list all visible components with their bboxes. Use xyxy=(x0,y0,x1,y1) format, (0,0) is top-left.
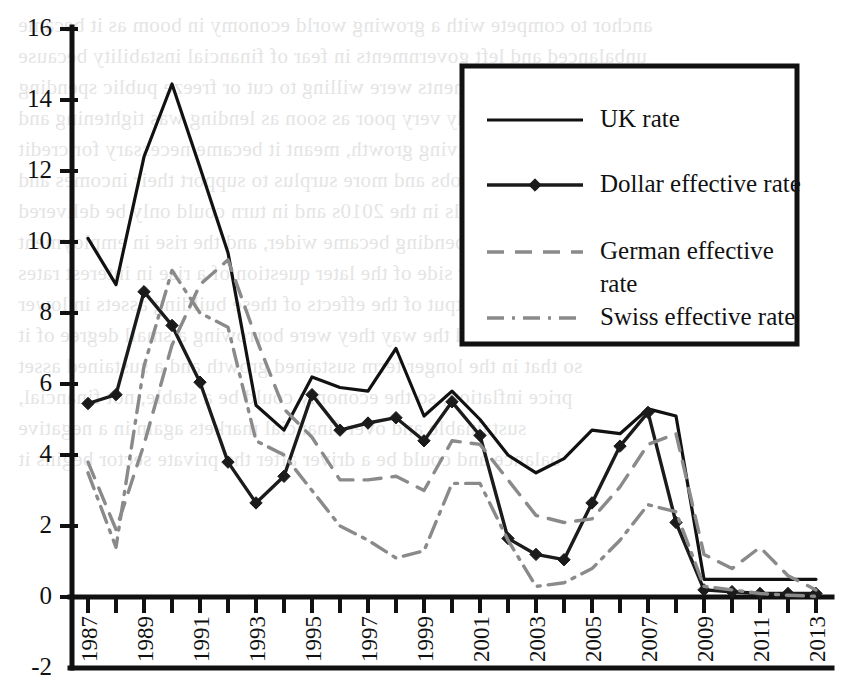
y-tick-label: 0 xyxy=(40,582,53,609)
x-tick-label: 2003 xyxy=(525,616,550,662)
y-tick-label: 16 xyxy=(27,14,52,41)
x-tick-label: 1999 xyxy=(413,616,438,662)
x-tick-label: 2009 xyxy=(693,616,718,662)
y-tick-label: 12 xyxy=(27,156,52,183)
y-tick-label: 8 xyxy=(40,298,53,325)
x-axis-tick-labels: 1987198919911993199519971999200120032005… xyxy=(77,616,830,662)
y-tick-label: 10 xyxy=(27,227,52,254)
x-tick-label: 2001 xyxy=(469,616,494,662)
legend-label: Swiss effective rate xyxy=(600,303,795,330)
legend: UK rateDollar effective rateGerman effec… xyxy=(462,66,801,344)
y-axis-ticks xyxy=(60,29,78,597)
y-tick-label: 6 xyxy=(40,369,53,396)
legend-label: Dollar effective rate xyxy=(600,170,801,197)
y-axis-tick-labels: -20246810121416 xyxy=(27,14,53,680)
data-point-marker xyxy=(362,417,374,429)
legend-label-wrap: rate xyxy=(600,270,637,297)
data-point-marker xyxy=(82,397,94,409)
data-point-marker xyxy=(194,376,206,388)
interest-rate-line-chart: -20246810121416 198719891991199319951997… xyxy=(0,0,846,700)
data-point-marker xyxy=(110,388,122,400)
y-tick-label: 2 xyxy=(40,511,53,538)
x-tick-label: 1991 xyxy=(189,616,214,662)
x-tick-label: 1989 xyxy=(133,616,158,662)
x-tick-label: 2011 xyxy=(749,617,774,662)
x-tick-label: 2007 xyxy=(637,616,662,662)
x-tick-label: 1987 xyxy=(77,616,102,662)
x-tick-label: 1993 xyxy=(245,616,270,662)
y-tick-label: 4 xyxy=(40,440,53,467)
x-tick-label: 2013 xyxy=(805,616,830,662)
legend-label: German effective xyxy=(600,237,774,264)
y-tick-label: -2 xyxy=(31,653,52,680)
x-tick-label: 1997 xyxy=(357,616,382,662)
data-point-marker xyxy=(558,554,570,566)
x-tick-label: 2005 xyxy=(581,616,606,662)
x-tick-label: 1995 xyxy=(301,616,326,662)
data-point-marker xyxy=(586,497,598,509)
legend-label: UK rate xyxy=(600,105,680,132)
chart-container: anchor to compete with a growing world e… xyxy=(0,0,846,700)
y-tick-label: 14 xyxy=(27,85,53,112)
